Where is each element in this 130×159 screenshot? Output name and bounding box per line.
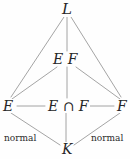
edge-EF-to-F — [76, 67, 120, 99]
node-label-intersection-E-cap-F: E ∩ F — [47, 99, 90, 113]
edge-L-to-F — [71, 17, 121, 97]
edge-annotation-left-normal: normal — [3, 134, 37, 143]
node-label-K: K — [61, 142, 73, 156]
node-label-E: E — [2, 99, 14, 113]
edge-annotation-right-normal: normal — [90, 134, 124, 143]
lattice-diagram: L E F E E ∩ F F K normal normal — [0, 0, 130, 159]
node-label-F: F — [116, 99, 128, 113]
edge-EF-to-E — [12, 67, 57, 99]
node-label-L: L — [61, 2, 73, 17]
node-label-compositum-EF: E F — [52, 52, 78, 66]
